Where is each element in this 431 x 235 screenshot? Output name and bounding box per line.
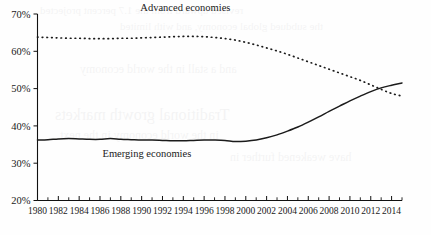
x-axis-tick-label: 1988 — [111, 206, 130, 216]
x-axis-tick-label: 2004 — [278, 206, 297, 216]
y-axis-tick-label: 60% — [11, 46, 31, 57]
x-axis-tick-label: 1998 — [215, 206, 234, 216]
x-axis: 1980198219841986198819901992199419961998… — [28, 196, 402, 216]
y-axis-tick-label: 70% — [11, 9, 31, 20]
y-axis: 20%30%40%50%60%70% — [11, 9, 37, 207]
x-axis-tick-label: 1992 — [153, 206, 172, 216]
series-line-advanced-economies — [38, 36, 403, 96]
chart-container: revised upward from the 1.7 percent proj… — [0, 0, 431, 235]
x-axis-tick-label: 1986 — [90, 206, 109, 216]
y-axis-tick-label: 40% — [11, 121, 31, 132]
y-axis-tick-label: 50% — [11, 83, 31, 94]
x-axis-tick-label: 1996 — [195, 206, 214, 216]
series-line-emerging-economies — [38, 83, 403, 142]
y-axis-tick-label: 20% — [11, 195, 31, 206]
x-axis-tick-label: 1984 — [70, 206, 89, 216]
x-axis-tick-label: 2000 — [236, 206, 255, 216]
y-axis-tick-label: 30% — [11, 158, 31, 169]
x-axis-tick-label: 1982 — [49, 206, 68, 216]
series-lines — [38, 36, 403, 141]
series-annotation-label: Emerging economies — [102, 148, 191, 159]
series-labels: Advanced economiesEmerging economies — [102, 2, 230, 159]
line-chart: 20%30%40%50%60%70% 198019821984198619881… — [0, 0, 431, 235]
x-axis-tick-label: 2002 — [257, 206, 276, 216]
x-axis-tick-label: 1980 — [28, 206, 47, 216]
x-axis-tick-label: 2012 — [361, 206, 380, 216]
series-annotation-label: Advanced economies — [140, 2, 230, 13]
x-axis-tick-label: 2006 — [299, 206, 318, 216]
x-axis-tick-label: 1990 — [132, 206, 151, 216]
x-axis-tick-label: 2010 — [340, 206, 359, 216]
x-axis-tick-label: 2014 — [382, 206, 401, 216]
x-axis-tick-label: 1994 — [174, 206, 193, 216]
x-axis-tick-label: 2008 — [320, 206, 339, 216]
